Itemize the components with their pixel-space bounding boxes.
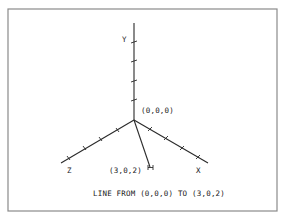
z-axis [61, 120, 134, 163]
3d-axes-diagram: Y (0,0,0) Z (3,0,2) X LINE FROM (0,0,0) … [0, 0, 283, 218]
z-axis-label: Z [67, 166, 72, 175]
caption: LINE FROM (0,0,0) TO (3,0,2) [93, 189, 225, 198]
y-axis-label: Y [122, 35, 127, 44]
x-axis [134, 120, 208, 163]
plotted-line [134, 120, 150, 167]
endpoint-label: (3,0,2) [109, 166, 142, 175]
endpoint-marker [148, 165, 153, 170]
x-axis-label: X [196, 166, 201, 175]
origin-label: (0,0,0) [141, 106, 174, 115]
